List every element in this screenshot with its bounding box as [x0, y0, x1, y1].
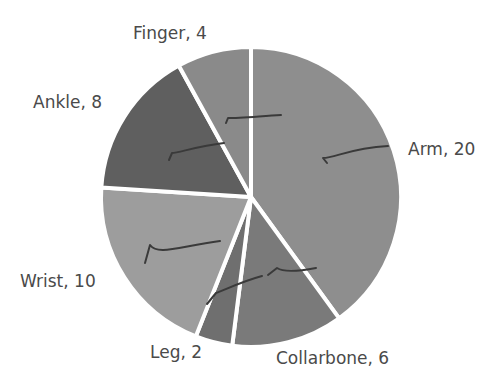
label-collarbone: Collarbone, 6	[276, 348, 389, 368]
pie-slices	[101, 47, 401, 347]
label-ankle: Ankle, 8	[33, 92, 102, 112]
label-wrist: Wrist, 10	[20, 271, 96, 291]
label-arm: Arm, 20	[408, 139, 475, 159]
label-finger: Finger, 4	[133, 23, 207, 43]
label-leg: Leg, 2	[150, 342, 202, 362]
pie-chart	[0, 0, 503, 381]
